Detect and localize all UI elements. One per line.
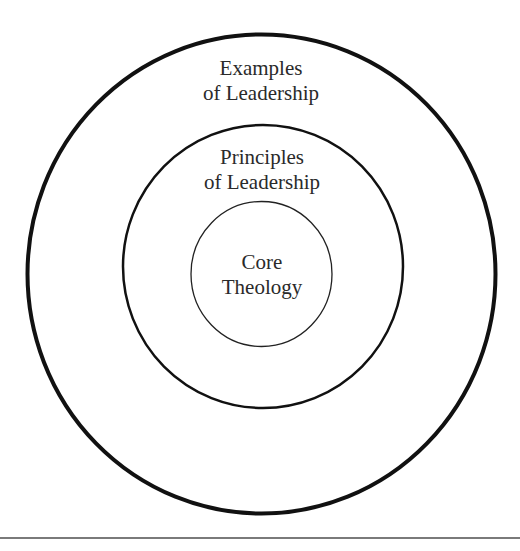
inner-circle-label-line2: Theology <box>162 275 362 300</box>
inner-circle-label-line1: Core <box>162 250 362 275</box>
concentric-circles-diagram: Examples of Leadership Principles of Lea… <box>0 0 520 551</box>
outer-ring-label-line1: Examples <box>161 56 361 81</box>
bottom-divider-line <box>0 537 520 539</box>
inner-circle-label: Core Theology <box>162 250 362 300</box>
outer-ring-label: Examples of Leadership <box>161 56 361 106</box>
middle-ring-label-line1: Principles <box>162 145 362 170</box>
outer-ring-label-line2: of Leadership <box>161 81 361 106</box>
middle-ring-label-line2: of Leadership <box>162 170 362 195</box>
middle-ring-label: Principles of Leadership <box>162 145 362 195</box>
